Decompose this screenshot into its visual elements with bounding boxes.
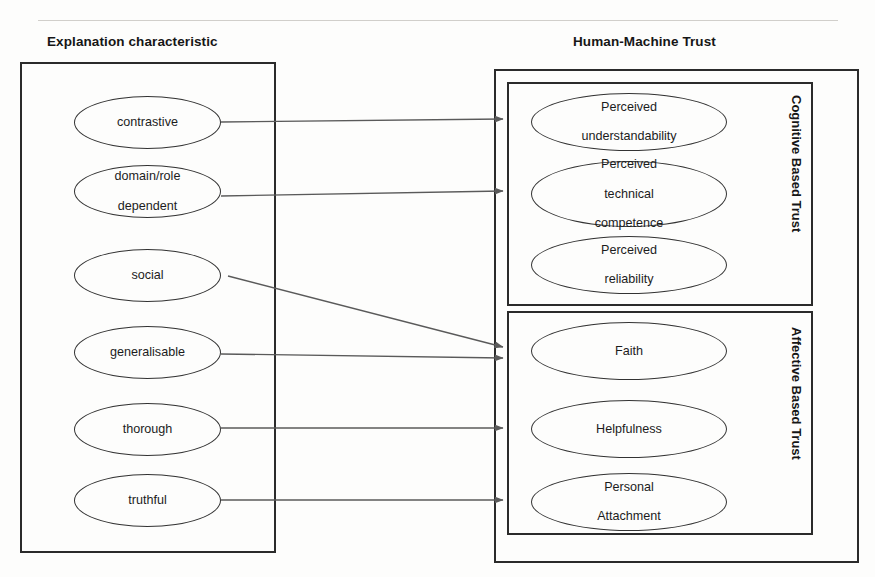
column-heading-explanation-characteristic: Explanation characteristic xyxy=(47,34,218,49)
node-perceived-understandability-line1: Perceived xyxy=(569,100,688,115)
node-perceived-understandability[interactable]: Perceived understandability xyxy=(531,93,727,151)
node-personal-attachment-label: Personal Attachment xyxy=(573,480,685,525)
node-faith[interactable]: Faith xyxy=(531,322,727,380)
node-generalisable-label: generalisable xyxy=(98,345,197,360)
node-social[interactable]: social xyxy=(74,249,221,302)
node-perceived-technical-competence-line3: competence xyxy=(583,216,676,231)
node-domain-role-line1: domain/role xyxy=(103,169,193,184)
node-perceived-reliability-line2: reliability xyxy=(589,272,669,287)
node-thorough-label: thorough xyxy=(111,422,185,437)
node-perceived-technical-competence[interactable]: Perceived technical competence xyxy=(531,161,727,227)
node-domain-role-line2: dependent xyxy=(103,199,193,214)
column-heading-human-machine-trust: Human-Machine Trust xyxy=(573,34,716,49)
node-perceived-understandability-line2: understandability xyxy=(569,129,688,144)
node-thorough[interactable]: thorough xyxy=(74,403,221,456)
node-perceived-technical-competence-line2: technical xyxy=(583,187,676,202)
affective-based-trust-label: Affective Based Trust xyxy=(789,327,804,460)
node-personal-attachment-line1: Personal xyxy=(585,480,673,495)
node-helpfulness[interactable]: Helpfulness xyxy=(531,400,727,458)
node-perceived-reliability-line1: Perceived xyxy=(589,243,669,258)
node-personal-attachment[interactable]: Personal Attachment xyxy=(531,473,727,531)
node-domain-role-dependent[interactable]: domain/role dependent xyxy=(74,165,221,218)
node-faith-label: Faith xyxy=(603,344,655,359)
node-personal-attachment-line2: Attachment xyxy=(585,509,673,524)
node-perceived-understandability-label: Perceived understandability xyxy=(557,100,700,145)
page-rule-artifact xyxy=(38,20,838,21)
node-generalisable[interactable]: generalisable xyxy=(74,326,221,379)
node-social-label: social xyxy=(119,268,175,283)
node-perceived-reliability-label: Perceived reliability xyxy=(577,243,681,288)
node-perceived-technical-competence-label: Perceived technical competence xyxy=(571,157,688,231)
node-domain-role-dependent-label: domain/role dependent xyxy=(91,169,205,214)
node-contrastive[interactable]: contrastive xyxy=(74,96,221,149)
diagram-canvas: Explanation characteristic Human-Machine… xyxy=(0,0,875,577)
node-truthful[interactable]: truthful xyxy=(74,474,221,527)
node-helpfulness-label: Helpfulness xyxy=(584,422,674,437)
node-contrastive-label: contrastive xyxy=(105,115,190,130)
node-truthful-label: truthful xyxy=(116,493,179,508)
cognitive-based-trust-label: Cognitive Based Trust xyxy=(789,95,804,232)
node-perceived-reliability[interactable]: Perceived reliability xyxy=(531,236,727,294)
node-perceived-technical-competence-line1: Perceived xyxy=(583,157,676,172)
